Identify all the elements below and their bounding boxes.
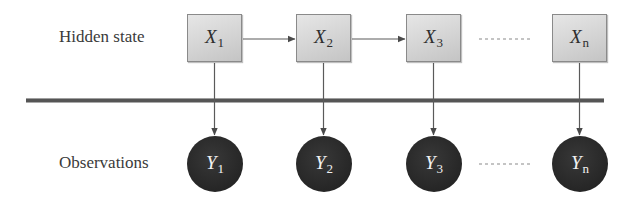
variable-symbol: Y bbox=[425, 152, 436, 173]
variable-subscript: 1 bbox=[218, 35, 225, 50]
variable-symbol: X bbox=[314, 26, 326, 47]
variable-subscript: n bbox=[583, 161, 590, 176]
variable-subscript: 3 bbox=[437, 35, 444, 50]
variable-symbol: Y bbox=[206, 152, 217, 173]
observation-y3: Y3 bbox=[406, 136, 462, 192]
hidden-state-x2: X2 bbox=[296, 14, 351, 62]
variable-subscript: 2 bbox=[327, 35, 334, 50]
variable-symbol: X bbox=[205, 26, 217, 47]
observations-label: Observations bbox=[59, 153, 149, 173]
hidden-state-x1: X1 bbox=[187, 14, 242, 62]
hidden-state-x3: X3 bbox=[406, 14, 461, 62]
observation-y1: Y1 bbox=[187, 136, 243, 192]
variable-subscript: 1 bbox=[218, 161, 225, 176]
observation-yn: Yn bbox=[552, 136, 608, 192]
variable-subscript: 2 bbox=[327, 161, 334, 176]
observation-y2: Y2 bbox=[296, 136, 352, 192]
variable-symbol: Y bbox=[315, 152, 326, 173]
variable-subscript: 3 bbox=[437, 161, 444, 176]
variable-symbol: X bbox=[570, 26, 582, 47]
variable-symbol: X bbox=[424, 26, 436, 47]
hidden-state-label: Hidden state bbox=[59, 27, 144, 47]
hidden-state-xn: Xn bbox=[552, 14, 607, 62]
variable-symbol: Y bbox=[571, 152, 582, 173]
variable-subscript: n bbox=[583, 35, 590, 50]
